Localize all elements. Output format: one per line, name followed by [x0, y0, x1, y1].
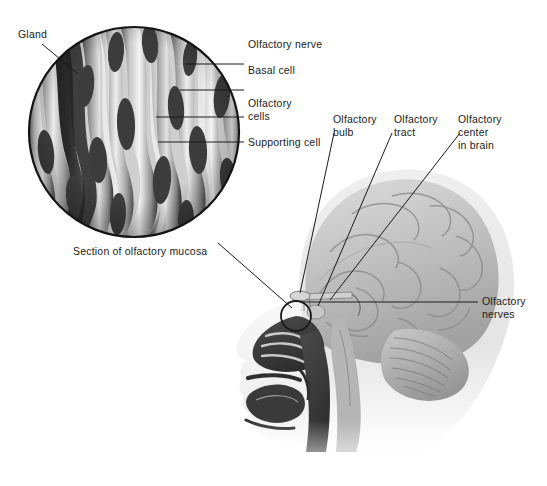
leader-inset-to-head	[218, 243, 292, 308]
olfactory-anatomy-figure: Gland Olfactory nerve Basal cell Olfacto…	[0, 0, 547, 486]
label-olfactory-nerves-line2: nerves	[482, 308, 515, 321]
label-olfactory-tract-line1: Olfactory	[394, 113, 438, 126]
label-basal-cell: Basal cell	[248, 64, 295, 77]
head-sagittal-illustration	[228, 170, 528, 486]
label-olfactory-nerves-line1: Olfactory	[482, 295, 526, 308]
label-supporting-cell: Supporting cell	[248, 136, 320, 149]
label-olfactory-cells-line2: cells	[248, 110, 270, 123]
label-olfactory-nerve: Olfactory nerve	[248, 38, 322, 51]
label-olfactory-bulb-line2: bulb	[333, 126, 354, 139]
label-olfactory-bulb-line1: Olfactory	[333, 113, 377, 126]
label-olfactory-center-line2: center	[458, 126, 488, 139]
label-olfactory-tract-line2: tract	[394, 126, 415, 139]
mucosa-inset-illustration	[28, 24, 244, 249]
label-olfactory-center-line3: in brain	[458, 139, 494, 152]
label-olfactory-cells-line1: Olfactory	[248, 97, 292, 110]
label-gland: Gland	[18, 28, 47, 41]
label-olfactory-center-line1: Olfactory	[458, 113, 502, 126]
label-inset-caption: Section of olfactory mucosa	[73, 245, 207, 258]
